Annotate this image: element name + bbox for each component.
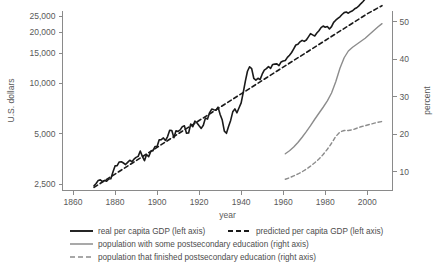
- series-line-1: [94, 6, 382, 188]
- x-axis-title: year: [219, 210, 236, 220]
- right-tick-label: 50: [400, 17, 410, 27]
- left-axis-title: U.S. dollars: [6, 79, 16, 123]
- right-axis-title: percent: [422, 86, 432, 115]
- left-tick-label: 2,500: [34, 179, 56, 189]
- legend-label-0: real per capita GDP (left axis): [98, 227, 206, 236]
- x-tick-label: 1980: [316, 197, 335, 207]
- x-tick-label: 1860: [64, 197, 83, 207]
- right-tick-label: 40: [400, 54, 410, 64]
- series-line-0: [94, 0, 382, 186]
- x-tick-label: 1920: [190, 197, 209, 207]
- x-tick-label: 1880: [106, 197, 125, 207]
- x-axis: 18601880190019201940196019802000: [63, 191, 393, 207]
- series-layer: [94, 0, 382, 187]
- series-line-3: [285, 122, 382, 180]
- legend-label-3: population that finished postsecondary e…: [98, 253, 316, 262]
- right-tick-label: 10: [400, 167, 410, 177]
- chart-canvas: 2,5005,00010,00015,00020,00025,000 10203…: [0, 0, 443, 273]
- right-axis: 1020304050: [393, 11, 410, 191]
- x-tick-label: 1940: [232, 197, 251, 207]
- left-tick-label: 10,000: [30, 78, 56, 88]
- left-tick-label: 25,000: [30, 11, 56, 21]
- left-axis: 2,5005,00010,00015,00020,00025,000: [30, 11, 63, 191]
- chart-legend: real per capita GDP (left axis)predicted…: [70, 227, 384, 262]
- x-tick-label: 2000: [358, 197, 377, 207]
- right-tick-label: 30: [400, 92, 410, 102]
- right-tick-label: 20: [400, 129, 410, 139]
- legend-label-1: predicted per capita GDP (left axis): [256, 227, 384, 236]
- x-tick-label: 1960: [274, 197, 293, 207]
- left-tick-label: 5,000: [34, 129, 56, 139]
- x-tick-label: 1900: [148, 197, 167, 207]
- left-tick-label: 15,000: [30, 48, 56, 58]
- legend-label-2: population with some postsecondary educa…: [98, 240, 309, 249]
- left-tick-label: 20,000: [30, 27, 56, 37]
- chart-figure: 2,5005,00010,00015,00020,00025,000 10203…: [0, 0, 443, 273]
